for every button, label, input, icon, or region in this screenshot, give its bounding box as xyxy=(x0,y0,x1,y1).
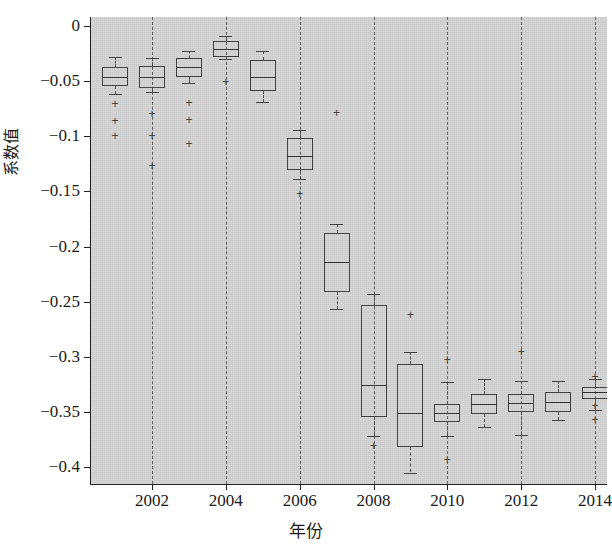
y-tick-mark xyxy=(84,302,91,303)
boxplot-2014: +++ xyxy=(91,17,607,484)
y-tick-mark xyxy=(84,136,91,137)
y-tick-mark xyxy=(84,26,91,27)
x-tick-mark xyxy=(152,484,153,490)
outlier-marker: + xyxy=(591,400,598,412)
y-tick-mark xyxy=(84,357,91,358)
x-tick-label: 2008 xyxy=(357,491,391,511)
x-axis-title: 年份 xyxy=(0,517,611,542)
y-tick-mark xyxy=(84,191,91,192)
x-tick-mark xyxy=(447,484,448,490)
y-tick-label: −0.25 xyxy=(0,292,80,312)
y-tick-label: 0 xyxy=(0,16,80,36)
y-tick-mark xyxy=(84,247,91,248)
x-axis-line xyxy=(90,484,607,485)
x-tick-label: 2004 xyxy=(209,491,243,511)
y-tick-mark xyxy=(84,412,91,413)
x-tick-mark xyxy=(300,484,301,490)
x-tick-label: 2002 xyxy=(135,491,169,511)
x-tick-label: 2012 xyxy=(504,491,538,511)
outlier-marker: + xyxy=(591,371,598,383)
y-tick-label: −0.2 xyxy=(0,237,80,257)
y-tick-label: −0.35 xyxy=(0,402,80,422)
y-tick-label: −0.3 xyxy=(0,347,80,367)
x-tick-mark xyxy=(595,484,596,490)
x-tick-mark xyxy=(226,484,227,490)
x-tick-mark xyxy=(374,484,375,490)
y-axis-line xyxy=(90,17,91,485)
y-tick-label: −0.4 xyxy=(0,457,80,477)
y-tick-mark xyxy=(84,81,91,82)
x-tick-label: 2014 xyxy=(578,491,612,511)
y-tick-label: −0.05 xyxy=(0,71,80,91)
y-tick-mark xyxy=(84,467,91,468)
x-tick-mark xyxy=(521,484,522,490)
x-tick-label: 2010 xyxy=(430,491,464,511)
y-axis-title: 系数值 xyxy=(0,92,22,212)
plot-area: ++++++++++++++++++++ xyxy=(91,17,607,484)
x-tick-label: 2006 xyxy=(283,491,317,511)
median-line xyxy=(582,392,607,393)
outlier-marker: + xyxy=(591,414,598,426)
